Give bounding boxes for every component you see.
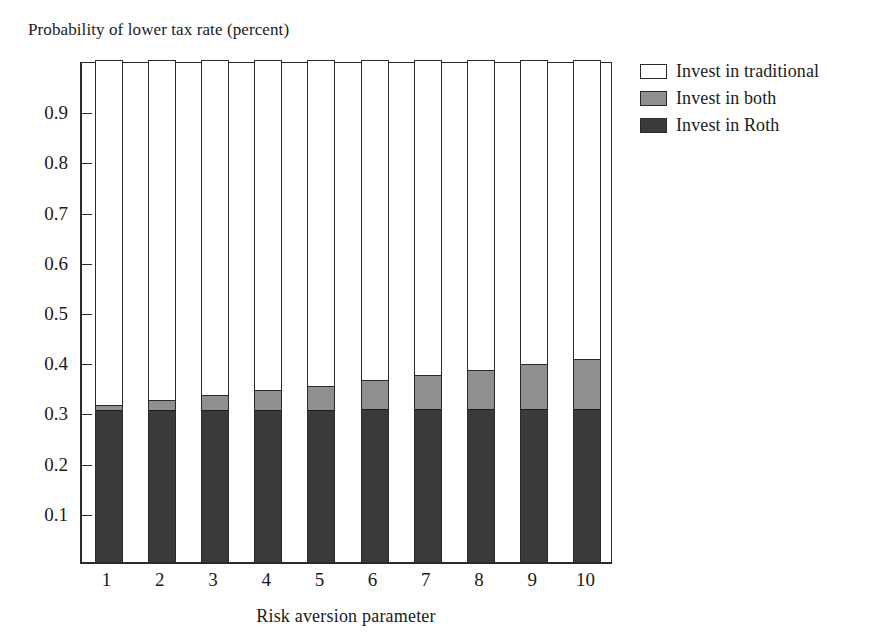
x-tick-label-3: 3 <box>186 570 239 589</box>
legend-swatch-traditional-icon <box>640 64 667 79</box>
x-tick-label-8: 8 <box>452 570 505 589</box>
bar-segment-both <box>362 380 388 409</box>
x-tick-label-2: 2 <box>133 570 186 589</box>
x-tick-label-5: 5 <box>293 570 346 589</box>
bar-segment-roth <box>415 409 441 562</box>
bar-segment-both <box>574 359 600 409</box>
x-tick-label-6: 6 <box>346 570 399 589</box>
y-axis-title: Probability of lower tax rate (percent) <box>28 20 289 40</box>
bar-2[interactable] <box>148 60 176 562</box>
bar-7[interactable] <box>414 60 442 562</box>
y-tick-0.9 <box>81 113 92 114</box>
bar-1[interactable] <box>95 60 123 562</box>
y-tick-label-0.6: 0.6 <box>12 254 68 273</box>
x-tick-label-7: 7 <box>399 570 452 589</box>
legend-label-both: Invest in both <box>676 88 776 109</box>
x-axis-title: Risk aversion parameter <box>80 606 612 627</box>
chart-figure: Probability of lower tax rate (percent) … <box>0 0 886 641</box>
y-tick-label-0.5: 0.5 <box>12 304 68 323</box>
bar-10[interactable] <box>573 60 601 562</box>
y-tick-0.3 <box>81 414 92 415</box>
bar-segment-roth <box>149 410 175 562</box>
bar-segment-roth <box>96 410 122 562</box>
y-tick-0.6 <box>81 264 92 265</box>
y-tick-label-0.9: 0.9 <box>12 103 68 122</box>
bar-segment-both <box>202 395 228 410</box>
chart-legend: Invest in traditionalInvest in bothInves… <box>640 58 880 139</box>
bar-segment-roth <box>521 409 547 562</box>
bar-segment-both <box>415 375 441 409</box>
bar-segment-roth <box>308 410 334 562</box>
bar-segment-both <box>149 400 175 410</box>
y-tick-label-0.1: 0.1 <box>12 505 68 524</box>
bar-segment-both <box>521 364 547 409</box>
bar-segment-both <box>255 390 281 410</box>
y-tick-0.5 <box>81 314 92 315</box>
bar-9[interactable] <box>520 60 548 562</box>
x-tick-label-4: 4 <box>240 570 293 589</box>
y-tick-label-0.4: 0.4 <box>12 354 68 373</box>
legend-swatch-both-icon <box>640 91 667 106</box>
bar-segment-both <box>308 386 334 410</box>
y-tick-0.1 <box>81 515 92 516</box>
x-tick-label-1: 1 <box>80 570 133 589</box>
bar-3[interactable] <box>201 60 229 562</box>
legend-label-roth: Invest in Roth <box>676 115 779 136</box>
y-tick-label-0.8: 0.8 <box>12 153 68 172</box>
y-tick-0.4 <box>81 364 92 365</box>
y-tick-label-0.2: 0.2 <box>12 455 68 474</box>
legend-item-both[interactable]: Invest in both <box>640 85 880 112</box>
x-axis-labels: 12345678910 <box>80 570 612 598</box>
bar-segment-roth <box>362 409 388 562</box>
x-tick-label-9: 9 <box>506 570 559 589</box>
bar-segment-roth <box>255 410 281 562</box>
bar-5[interactable] <box>307 60 335 562</box>
bars-container <box>82 63 611 562</box>
bar-segment-roth <box>468 409 494 562</box>
bar-4[interactable] <box>254 60 282 562</box>
plot-area <box>80 62 612 564</box>
bar-segment-both <box>468 370 494 410</box>
legend-swatch-roth-icon <box>640 118 667 133</box>
y-tick-label-0.7: 0.7 <box>12 204 68 223</box>
x-tick-label-10: 10 <box>559 570 612 589</box>
bar-segment-roth <box>202 410 228 562</box>
y-axis-labels: 0.90.80.70.60.50.40.30.20.1 <box>12 62 68 564</box>
y-tick-0.8 <box>81 163 92 164</box>
legend-label-traditional: Invest in traditional <box>676 61 819 82</box>
legend-item-traditional[interactable]: Invest in traditional <box>640 58 880 85</box>
legend-item-roth[interactable]: Invest in Roth <box>640 112 880 139</box>
y-tick-0.7 <box>81 214 92 215</box>
bar-8[interactable] <box>467 60 495 562</box>
y-tick-label-0.3: 0.3 <box>12 404 68 423</box>
bar-6[interactable] <box>361 60 389 562</box>
y-tick-0.2 <box>81 465 92 466</box>
clipped-caption-above <box>150 0 670 5</box>
bar-segment-roth <box>574 409 600 562</box>
